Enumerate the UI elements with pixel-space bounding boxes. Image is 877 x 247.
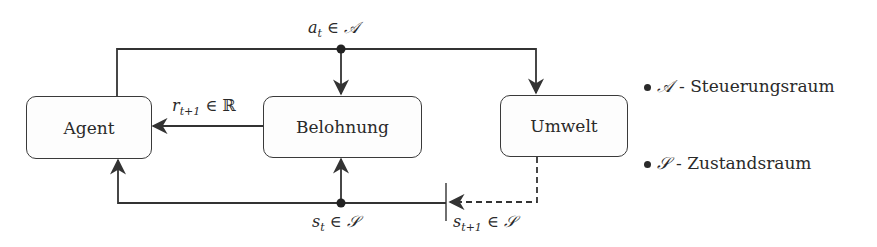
bullet-icon	[644, 161, 651, 168]
state-junction-dot	[337, 199, 346, 208]
action-line	[117, 49, 536, 96]
action-label: at ∈ 𝒜	[308, 18, 359, 40]
next-state-label: st+1 ∈ 𝒮	[453, 212, 516, 234]
legend-item-state-space: 𝒮- Zustandsraum	[644, 153, 812, 173]
agent-node: Agent	[26, 96, 152, 159]
state-label: st ∈ 𝒮	[312, 212, 359, 234]
next-state-dashed-line	[450, 157, 537, 202]
state-line	[118, 160, 446, 203]
reward-signal-label: rt+1 ∈ ℝ	[172, 96, 236, 118]
environment-node: Umwelt	[500, 95, 628, 157]
action-junction-dot	[337, 45, 346, 54]
bullet-icon	[644, 84, 651, 91]
reward-label: Belohnung	[296, 117, 389, 137]
agent-label: Agent	[64, 118, 115, 138]
reward-node: Belohnung	[263, 96, 422, 158]
legend-item-action-space: 𝒜- Steuerungsraum	[644, 76, 835, 96]
environment-label: Umwelt	[530, 116, 597, 136]
